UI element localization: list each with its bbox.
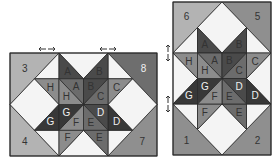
center-g-label: G <box>201 81 209 92</box>
point-d-outer-label: D <box>251 90 258 101</box>
corner-6-label: 6 <box>184 11 190 22</box>
center-g-label: G <box>62 107 70 118</box>
center-c-label: C <box>97 91 104 102</box>
seam-marker-left-icon <box>39 47 55 51</box>
corner-7-label: 7 <box>140 136 146 147</box>
seam-marker-bottom-icon <box>166 96 170 112</box>
center-a-label: A <box>211 55 218 66</box>
center-f-label: F <box>212 91 218 102</box>
point-f-outer-label: F <box>65 132 71 143</box>
point-c-outer-label: C <box>113 82 120 93</box>
center-d-label: D <box>97 107 104 118</box>
point-a-outer-label: A <box>202 39 209 50</box>
point-d-outer-label: D <box>113 116 120 127</box>
point-e-outer-label: E <box>96 132 103 143</box>
point-g-outer-label: G <box>47 116 55 127</box>
left-block: 3847ABHCGDFEABCDEFGH <box>10 47 157 156</box>
point-e-outer-label: E <box>236 107 243 118</box>
point-h-outer-label: H <box>47 82 54 93</box>
center-c-label: C <box>236 65 243 76</box>
point-b-outer-label: B <box>96 66 103 77</box>
corner-4-label: 4 <box>22 136 28 147</box>
seam-marker-top-icon <box>166 45 170 61</box>
center-h-label: H <box>63 91 70 102</box>
point-a-outer-label: A <box>64 66 71 77</box>
point-h-outer-label: H <box>185 56 192 67</box>
corner-3-label: 3 <box>22 63 28 74</box>
point-b-outer-label: B <box>236 39 243 50</box>
center-e-label: E <box>88 117 95 128</box>
corner-5-label: 5 <box>255 11 261 22</box>
corner-2-label: 2 <box>255 135 261 146</box>
center-f-label: F <box>73 117 79 128</box>
center-b-label: B <box>88 81 95 92</box>
center-e-label: E <box>226 91 233 102</box>
point-g-outer-label: G <box>185 90 193 101</box>
corner-1-label: 1 <box>184 135 190 146</box>
center-b-label: B <box>226 55 233 66</box>
seam-marker-right-icon <box>100 47 116 51</box>
right-block: 6512ABHCGDFEABCDEFGH <box>166 2 271 155</box>
center-a-label: A <box>73 81 80 92</box>
quilt-diagram: 3847ABHCGDFEABCDEFGH6512ABHCGDFEABCDEFGH <box>0 0 280 167</box>
center-d-label: D <box>236 81 243 92</box>
corner-8-label: 8 <box>141 63 147 74</box>
point-c-outer-label: C <box>251 56 258 67</box>
center-h-label: H <box>201 65 208 76</box>
point-f-outer-label: F <box>202 107 208 118</box>
